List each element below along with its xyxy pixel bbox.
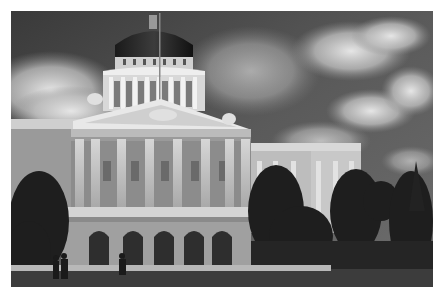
capitol-photo [11, 11, 433, 287]
ground [11, 269, 433, 287]
capitol-scene [11, 11, 433, 287]
base-arches [61, 217, 251, 269]
portico [65, 139, 257, 217]
flagpole [159, 13, 161, 113]
